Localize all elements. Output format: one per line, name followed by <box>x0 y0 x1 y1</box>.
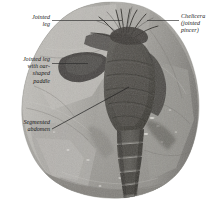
label-chelicera-jointed-pincer: Chelicera (jointed pincer) <box>181 13 219 35</box>
label-segmented-abdomen: Segmented abdomen <box>2 119 50 133</box>
label-jointed-leg: Jointed leg <box>6 14 50 28</box>
fossil-figure: Jointed leg Jointed leg with oar- shaped… <box>0 0 219 211</box>
label-jointed-leg-with-oar-shaped-paddle: Jointed leg with oar- shaped paddle <box>2 56 50 85</box>
